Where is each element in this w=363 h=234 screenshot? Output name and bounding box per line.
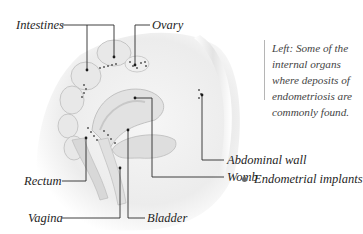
implant-marker-icon [242, 177, 247, 182]
label-vagina: Vagina [28, 211, 63, 225]
legend: Endometrial implants [242, 172, 363, 186]
label-rectum: Rectum [24, 174, 61, 188]
figure-caption: Left: Some of the internal organs where … [272, 40, 362, 120]
label-bladder: Bladder [147, 211, 187, 225]
label-ovary: Ovary [152, 18, 183, 32]
label-abdominal-wall: Abdominal wall [227, 153, 307, 167]
legend-label: Endometrial implants [254, 172, 363, 186]
caption-rule [264, 40, 265, 100]
ovary-shape [125, 56, 149, 72]
label-intestines: Intestines [16, 18, 64, 32]
